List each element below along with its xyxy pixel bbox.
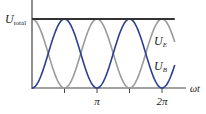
x-axis-label: ωt bbox=[190, 83, 200, 94]
x-tick-label-1: π bbox=[94, 95, 100, 107]
x-tick-label-3: 2π bbox=[156, 95, 168, 107]
chart: π2π Utotal UE UB ωt bbox=[0, 0, 206, 114]
y-label-u-total: Utotal bbox=[5, 12, 26, 27]
legend-label-u-e: UE bbox=[154, 34, 168, 49]
legend-label-u-b: UB bbox=[154, 59, 168, 74]
